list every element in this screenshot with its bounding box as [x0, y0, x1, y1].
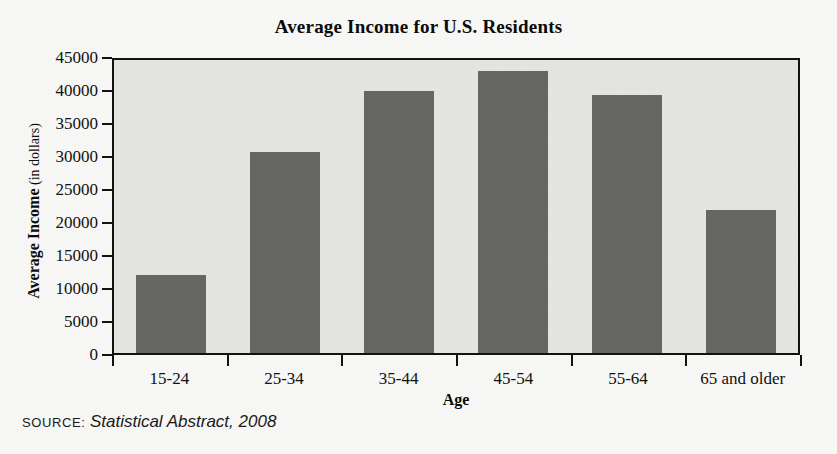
x-axis-tick-mark [685, 355, 687, 366]
source-text: Statistical Abstract, 2008 [90, 412, 276, 431]
bar-slot [114, 60, 228, 353]
y-axis-tick-label: 40000 [56, 81, 99, 101]
source-note: SOURCE: Statistical Abstract, 2008 [22, 412, 276, 432]
y-axis-tick-mark [102, 189, 112, 191]
y-axis-tick-mark [102, 354, 112, 356]
bar-slot [228, 60, 342, 353]
y-axis-title: Average Income (in dollars) [25, 81, 43, 341]
x-axis-tick-label: 45-54 [456, 369, 571, 389]
x-axis-tick-labels: 15-2425-3435-4445-5455-6465 and older [112, 369, 800, 389]
bar-slot [570, 60, 684, 353]
x-axis-tick-mark [571, 355, 573, 366]
x-axis-tick-mark [227, 355, 229, 366]
x-axis-tick-label: 15-24 [112, 369, 227, 389]
bar-45-54 [478, 71, 549, 353]
y-axis-tick-label: 30000 [56, 147, 99, 167]
y-axis-tick-mark [102, 123, 112, 125]
bar-65-and-older [706, 210, 777, 353]
bar-35-44 [364, 91, 435, 353]
x-axis-tick-mark [112, 355, 114, 366]
bars-container [114, 60, 798, 353]
x-axis-tick-mark [341, 355, 343, 366]
y-axis-tick-label: 10000 [56, 279, 99, 299]
plot-area [112, 58, 800, 355]
x-axis-tick-mark [456, 355, 458, 366]
x-axis-tick-label: 35-44 [341, 369, 456, 389]
y-axis-tick-mark [102, 321, 112, 323]
y-axis-tick-mark [102, 156, 112, 158]
y-axis-tick-label: 5000 [64, 312, 98, 332]
bar-chart-figure: Average Income for U.S. Residents 050001… [0, 0, 837, 454]
y-axis-title-unit [27, 185, 42, 189]
y-axis-tick-mark [102, 90, 112, 92]
bar-slot [342, 60, 456, 353]
y-axis-tick-label: 15000 [56, 246, 99, 266]
y-axis-title-unit-text: (in dollars) [27, 123, 42, 185]
y-axis-tick-mark [102, 57, 112, 59]
bar-25-34 [250, 152, 321, 353]
bar-55-64 [592, 95, 663, 353]
y-axis-tick-mark [102, 222, 112, 224]
y-axis-tick-label: 0 [90, 345, 99, 365]
source-label: SOURCE: [22, 415, 85, 430]
x-axis-title: Age [112, 391, 800, 409]
y-axis-tick-label: 20000 [56, 213, 99, 233]
y-axis-title-main: Average Income [25, 189, 42, 299]
bar-15-24 [136, 275, 207, 353]
x-axis-tick-mark [800, 355, 802, 366]
bar-slot [684, 60, 798, 353]
y-axis: 0500010000150002000025000300003500040000… [0, 0, 112, 413]
x-axis [112, 355, 800, 367]
y-axis-tick-label: 35000 [56, 114, 99, 134]
y-axis-tick-mark [102, 255, 112, 257]
y-axis-tick-label: 45000 [56, 48, 99, 68]
bar-slot [456, 60, 570, 353]
chart-title: Average Income for U.S. Residents [0, 16, 837, 38]
y-axis-tick-mark [102, 288, 112, 290]
x-axis-tick-label: 65 and older [685, 369, 800, 389]
x-axis-tick-label: 25-34 [227, 369, 342, 389]
x-axis-tick-label: 55-64 [571, 369, 686, 389]
y-axis-tick-label: 25000 [56, 180, 99, 200]
